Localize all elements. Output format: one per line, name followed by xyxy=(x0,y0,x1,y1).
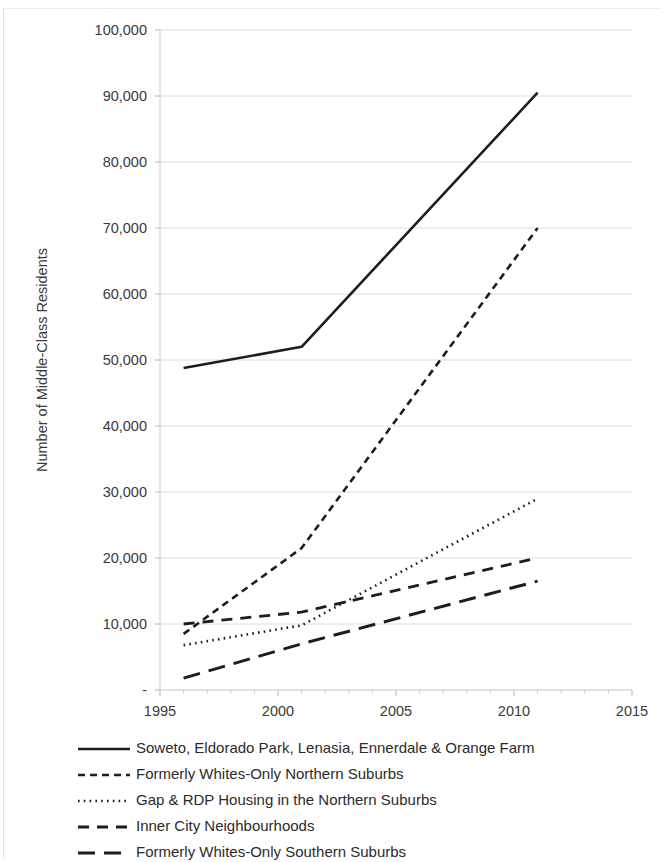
line-chart: -10,00020,00030,00040,00050,00060,00070,… xyxy=(0,0,664,862)
legend-label-3: Inner City Neighbourhoods xyxy=(136,817,314,834)
series-line-0 xyxy=(184,93,538,368)
legend-label-4: Formerly Whites-Only Southern Suburbs xyxy=(136,843,406,860)
y-axis-tick-labels: -10,00020,00030,00040,00050,00060,00070,… xyxy=(95,22,148,698)
y-tick-label: 30,000 xyxy=(103,484,147,500)
y-tick-label: 100,000 xyxy=(95,22,147,38)
data-series xyxy=(184,93,538,678)
axis-tickmarks xyxy=(155,30,632,696)
y-axis-title: Number of Middle-Class Residents xyxy=(34,248,50,472)
x-tick-label: 1995 xyxy=(144,703,176,719)
y-axis-title-text: Number of Middle-Class Residents xyxy=(34,248,50,472)
y-tick-label: 50,000 xyxy=(103,352,147,368)
series-line-1 xyxy=(184,228,538,634)
y-tick-label: 90,000 xyxy=(103,88,147,104)
x-tick-label: 2000 xyxy=(262,703,294,719)
x-tick-label: 2015 xyxy=(616,703,648,719)
x-tick-label: 2005 xyxy=(380,703,412,719)
y-tick-label: 10,000 xyxy=(103,616,147,632)
chart-legend: Soweto, Eldorado Park, Lenasia, Ennerdal… xyxy=(78,739,535,860)
legend-label-0: Soweto, Eldorado Park, Lenasia, Ennerdal… xyxy=(136,739,535,756)
series-line-3 xyxy=(184,558,538,624)
gridlines xyxy=(160,30,632,624)
series-line-2 xyxy=(184,499,538,646)
x-axis-tick-labels: 19952000200520102015 xyxy=(144,703,648,719)
y-tick-label: 80,000 xyxy=(103,154,147,170)
y-tick-label: 60,000 xyxy=(103,286,147,302)
legend-label-2: Gap & RDP Housing in the Northern Suburb… xyxy=(136,791,437,808)
x-tick-label: 2010 xyxy=(498,703,530,719)
y-tick-label: 40,000 xyxy=(103,418,147,434)
y-tick-label: - xyxy=(142,682,147,698)
y-tick-label: 20,000 xyxy=(103,550,147,566)
legend-label-1: Formerly Whites-Only Northern Suburbs xyxy=(136,765,404,782)
y-tick-label: 70,000 xyxy=(103,220,147,236)
chart-container: -10,00020,00030,00040,00050,00060,00070,… xyxy=(0,0,664,862)
